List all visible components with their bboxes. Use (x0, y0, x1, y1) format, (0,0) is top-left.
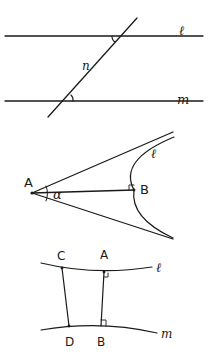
point-D-dot (68, 325, 71, 328)
label-l: ℓ (179, 23, 185, 38)
point-B-dot (133, 189, 136, 192)
label-A: A (100, 248, 109, 262)
curve-l-bottom (41, 263, 152, 271)
geometry-diagram: ℓ m n A B α ℓ C A D B ℓ m (0, 0, 211, 360)
label-curve-m: m (161, 327, 172, 341)
label-A: A (24, 175, 33, 190)
label-curve-l: ℓ (156, 260, 162, 275)
transversal-n (48, 18, 137, 117)
label-curve-l: ℓ (151, 146, 157, 161)
label-D: D (65, 335, 74, 349)
angle-mark-lower (71, 95, 73, 101)
label-m: m (177, 92, 189, 107)
figure-parallel-transversal: ℓ m n (5, 18, 203, 117)
upper-ray (32, 132, 173, 193)
angle-alpha-arc (46, 186, 48, 201)
point-C-dot (61, 267, 64, 270)
angle-mark-upper (112, 36, 115, 42)
label-B: B (97, 335, 105, 349)
label-n: n (82, 59, 90, 73)
label-alpha: α (53, 187, 62, 202)
point-A-dot (30, 191, 33, 194)
point-A-dot (103, 271, 106, 274)
label-C: C (57, 249, 65, 263)
segment-CD (62, 268, 69, 326)
figure-angle-of-parallelism: A B α ℓ (24, 132, 174, 239)
figure-quadrilateral: C A D B ℓ m (41, 248, 172, 349)
label-B: B (140, 182, 149, 197)
segment-AB-quad (101, 272, 104, 326)
curve-m (41, 326, 157, 333)
right-angle-A (104, 273, 108, 277)
